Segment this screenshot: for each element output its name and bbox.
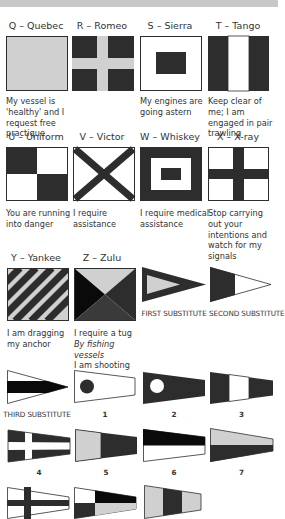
pennant-label-3: 3 — [210, 410, 273, 419]
pennant-second-substitute-icon — [210, 267, 272, 302]
pennant-third-substitute-icon — [7, 370, 69, 404]
flag-title-r: R – Romeo — [68, 20, 136, 31]
flag-meaning-y: I am dragging my anchor — [7, 328, 77, 350]
flag-meaning-z-italic: By fishing vessels — [74, 339, 146, 361]
pennant-5-icon — [75, 429, 137, 462]
flag-u-icon — [6, 147, 68, 201]
pennant-label-1: 1 — [74, 410, 136, 419]
pennant-6-icon — [143, 429, 205, 462]
pennant-label-second: SECOND SUBSTITUTE — [209, 309, 278, 318]
flag-title-v: V – Victor — [68, 131, 136, 142]
flag-title-w: W – Whiskey — [136, 131, 204, 142]
flag-y-icon — [7, 268, 69, 321]
pennant-label-first: FIRST SUBSTITUTE — [140, 309, 208, 318]
pennant-9-icon — [74, 487, 136, 519]
flag-title-s: S – Sierra — [136, 20, 204, 31]
flag-v-icon — [73, 147, 135, 201]
top-band — [0, 0, 278, 7]
flag-meaning-x: Stop carrying out your intentions and wa… — [208, 208, 278, 262]
flag-x-icon — [208, 147, 269, 201]
pennant-3-icon — [210, 372, 273, 404]
flag-meaning-u: You are running into danger — [6, 208, 76, 230]
flag-meaning-s: My engines are going astern — [140, 96, 210, 118]
flag-title-t: T – Tango — [204, 20, 272, 31]
flag-meaning-z-main: I require a tug — [74, 328, 132, 338]
flag-t-icon — [208, 36, 269, 91]
flag-z-icon — [74, 268, 136, 321]
flag-title-x: X – X-ray — [204, 131, 272, 142]
pennant-label-4: 4 — [8, 468, 70, 477]
flag-q-icon — [6, 36, 68, 91]
pennant-label-2: 2 — [143, 410, 205, 419]
flag-w-icon — [140, 147, 202, 201]
pennant-2-icon — [143, 372, 205, 404]
flag-meaning-w: I require medical assistance — [140, 208, 210, 230]
pennant-7-icon — [210, 428, 273, 462]
pennant-0-icon — [144, 485, 201, 519]
flag-title-q: Q – Quebec — [2, 20, 70, 31]
flag-title-u: U – Uniform — [2, 131, 70, 142]
flag-title-y: Y – Yankee — [2, 252, 70, 263]
flag-title-z: Z – Zulu — [68, 252, 136, 263]
pennant-label-6: 6 — [143, 468, 205, 477]
pennant-8-icon — [7, 487, 69, 519]
pennant-label-5: 5 — [75, 468, 137, 477]
pennant-4-icon — [8, 430, 70, 462]
flag-r-icon — [72, 36, 134, 91]
pennant-first-substitute-icon — [142, 267, 206, 302]
flag-meaning-v: I require assistance — [73, 208, 145, 230]
pennant-1-icon — [74, 370, 136, 403]
pennant-label-7: 7 — [210, 468, 273, 477]
pennant-label-third: THIRD SUBSTITUTE — [3, 410, 71, 419]
flag-s-icon — [140, 36, 202, 91]
